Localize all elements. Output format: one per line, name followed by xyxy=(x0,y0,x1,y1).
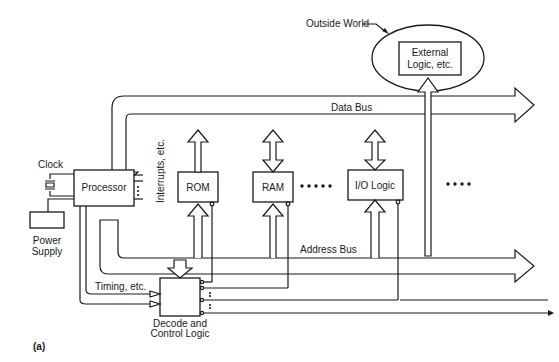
interrupts-label: Interrupts, etc. xyxy=(155,139,166,203)
svg-text:Processor: Processor xyxy=(81,182,127,193)
microcomputer-block-diagram: Data Bus Address Bus External Logic, etc… xyxy=(0,0,559,362)
outside-world-label: Outside World xyxy=(306,18,369,29)
timing-label: Timing, etc. xyxy=(95,281,146,292)
io-address-arrow xyxy=(365,200,385,258)
rom-data-arrow xyxy=(188,130,208,172)
svg-text:Supply: Supply xyxy=(32,246,63,257)
svg-text:External: External xyxy=(412,47,449,58)
data-bus-label: Data Bus xyxy=(331,102,372,113)
svg-text:I/O Logic: I/O Logic xyxy=(355,180,395,191)
svg-text:Power: Power xyxy=(33,235,62,246)
crystal-icon xyxy=(45,174,74,196)
io-data-arrow xyxy=(365,130,385,170)
ellipsis-dots-1 xyxy=(300,184,331,187)
address-bus-label: Address Bus xyxy=(300,244,357,255)
ram-data-arrow xyxy=(263,130,283,172)
svg-text:ROM: ROM xyxy=(186,182,209,193)
clock-label: Clock xyxy=(38,159,64,170)
svg-text:Control Logic: Control Logic xyxy=(151,328,210,339)
rom-address-arrow xyxy=(188,204,208,258)
ellipsis-dots-2 xyxy=(446,182,470,185)
svg-text:Logic, etc.: Logic, etc. xyxy=(407,59,453,70)
ram-address-arrow xyxy=(263,204,283,258)
svg-text:RAM: RAM xyxy=(262,182,284,193)
power-supply-box xyxy=(30,212,64,228)
decode-control-box xyxy=(160,278,200,316)
figure-label: (a) xyxy=(33,341,45,352)
